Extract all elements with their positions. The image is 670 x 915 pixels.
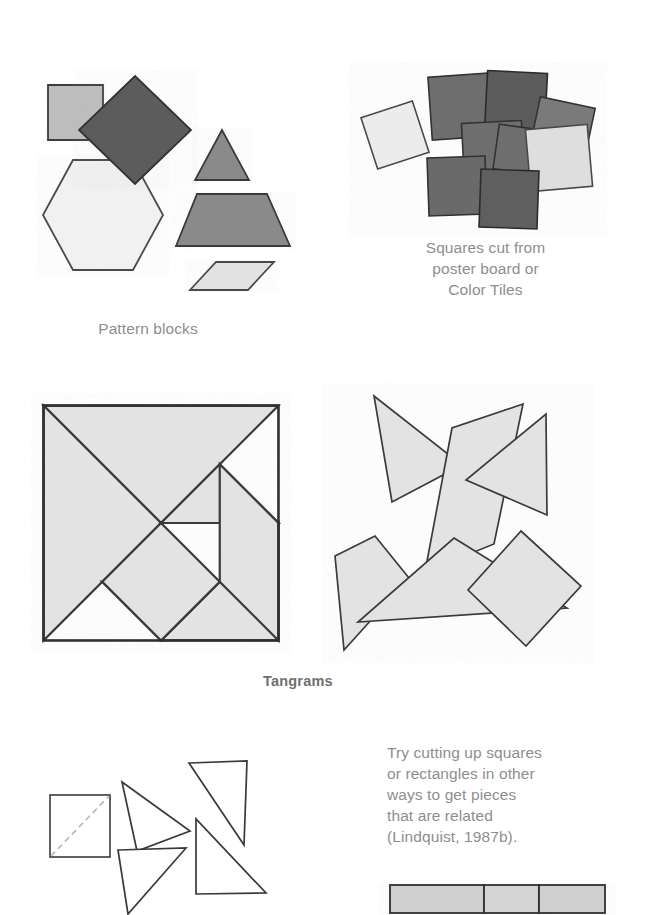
- pattern-blocks-caption: Pattern blocks: [28, 318, 268, 339]
- color-tile-9: [479, 169, 539, 229]
- pattern-blocks-figure: [40, 72, 290, 297]
- cut-triangle-3: [196, 819, 266, 894]
- color-tile-8: [427, 156, 487, 216]
- color-tile-1: [361, 101, 429, 169]
- tangram-scattered-svg: [330, 392, 660, 652]
- square-cut-figure: [50, 795, 330, 909]
- color-tiles-figure: [368, 72, 603, 242]
- square-cut-svg: [50, 795, 330, 915]
- pattern-block-yellow-hexagon: [43, 160, 163, 270]
- segmented-strip-figure: [389, 884, 607, 914]
- strip-segment-3: [539, 885, 605, 913]
- pattern-block-tan-rhombus: [190, 262, 274, 290]
- strip-segment-1: [390, 885, 484, 913]
- tangram-square-figure: [40, 402, 282, 644]
- tangram-square-svg: [40, 402, 282, 644]
- color-tiles-caption: Squares cut from poster board or Color T…: [373, 237, 598, 300]
- pattern-blocks-svg: [40, 72, 290, 297]
- cutting-note-caption: Try cutting up squares or rectangles in …: [387, 742, 652, 847]
- tangrams-caption: Tangrams: [263, 671, 333, 692]
- color-tiles-svg: [368, 72, 603, 242]
- segmented-strip-svg: [389, 884, 607, 914]
- cut-triangle-4: [118, 848, 186, 914]
- cut-triangle-1: [122, 782, 190, 851]
- pattern-block-red-trapezoid: [176, 194, 290, 246]
- strip-segment-2: [484, 885, 539, 913]
- tangram-scattered-figure: [330, 392, 660, 652]
- pattern-block-green-triangle: [195, 130, 249, 180]
